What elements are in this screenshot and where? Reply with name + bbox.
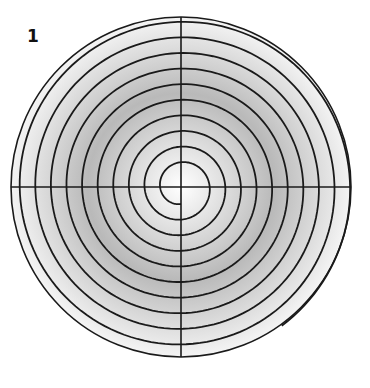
spiral-diagram [0, 0, 370, 388]
